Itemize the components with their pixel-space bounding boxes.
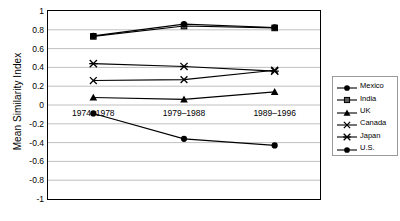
legend-marker	[336, 92, 358, 104]
circle-filled-marker	[181, 21, 187, 27]
legend-item-india[interactable]: India	[336, 92, 395, 104]
y-tick-label: 1	[14, 7, 44, 16]
legend-label: India	[358, 95, 376, 103]
circle-filled-marker	[344, 147, 350, 153]
y-tick-label: 0.4	[14, 63, 44, 72]
legend-item-canada[interactable]: Canada	[336, 117, 395, 129]
plot-svg	[48, 11, 320, 199]
asterisk-marker	[180, 63, 188, 70]
series-uk	[90, 88, 279, 102]
legend-marker	[336, 117, 358, 129]
y-tick-label: 0.2	[14, 82, 44, 91]
circle-filled-marker	[90, 33, 96, 39]
circle-filled-marker	[272, 24, 278, 30]
y-tick-label: 0	[14, 101, 44, 110]
square-filled-marker	[344, 98, 349, 103]
chart-legend: MexicoIndiaUKCanadaJapanU.S.	[332, 76, 398, 156]
legend-marker	[336, 80, 358, 92]
asterisk-marker	[271, 68, 279, 75]
asterisk-marker	[343, 134, 351, 141]
circle-filled-marker	[344, 85, 350, 91]
circle-filled-marker	[272, 142, 278, 148]
legend-marker	[336, 142, 358, 154]
legend-label: U.S.	[358, 144, 375, 152]
legend-item-mexico[interactable]: Mexico	[336, 80, 395, 92]
legend-item-uk[interactable]: UK	[336, 105, 395, 117]
chart-container: Mean Similarity Index 10.80.60.40.20-0.2…	[0, 0, 400, 221]
y-tick-label: -0.6	[14, 157, 44, 166]
asterisk-marker	[89, 60, 97, 67]
y-tick-label: -1	[14, 195, 44, 204]
legend-label: Japan	[358, 132, 380, 140]
x-tick-label: 1974–1978	[69, 108, 117, 118]
y-tick-label: -0.8	[14, 176, 44, 185]
circle-filled-marker	[181, 136, 187, 142]
y-tick-label: -0.2	[14, 120, 44, 129]
legend-item-us[interactable]: U.S.	[336, 141, 395, 153]
x-tick-label: 1989–1996	[251, 108, 299, 118]
y-tick-label: -0.4	[14, 139, 44, 148]
legend-item-japan[interactable]: Japan	[336, 129, 395, 141]
legend-label: Mexico	[358, 82, 384, 90]
legend-label: Canada	[358, 119, 386, 127]
y-tick-label: 0.8	[14, 26, 44, 35]
triangle-filled-marker	[271, 88, 279, 95]
y-tick-label: 0.6	[14, 45, 44, 54]
plot-area	[47, 10, 321, 200]
y-axis-tick-labels: 10.80.60.40.20-0.2-0.4-0.6-0.8-1	[12, 0, 44, 221]
legend-marker	[336, 129, 358, 141]
legend-marker	[336, 105, 358, 117]
legend-label: UK	[358, 107, 370, 115]
x-tick-label: 1979–1988	[160, 108, 208, 118]
